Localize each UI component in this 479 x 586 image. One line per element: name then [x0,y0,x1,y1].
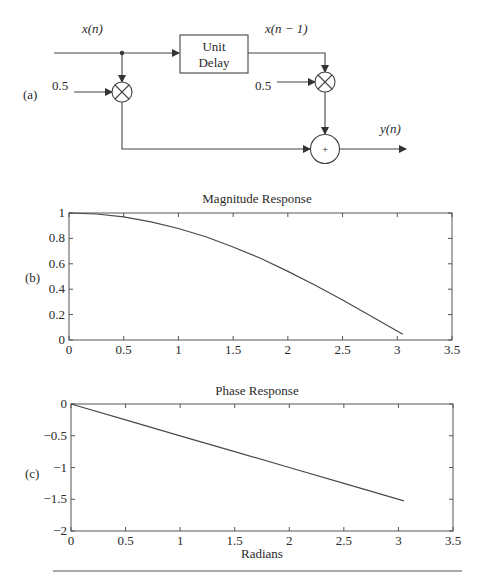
y-tick-label: 0.8 [49,230,65,245]
y-tick-label: 0.6 [49,256,66,271]
x-tick-label: 3 [394,342,401,357]
y-tick-label: 0.2 [49,307,65,322]
y-tick-label: −1.5 [43,491,67,506]
multiplier-1-icon [112,82,132,102]
panel-label-c: (c) [25,466,39,481]
x-tick-label: 1.5 [225,342,241,357]
y-tick-label: −0.5 [43,428,67,443]
x-axis-label: Radians [241,546,283,561]
x-tick-label: 2.5 [336,533,352,548]
coefficient-2-label: 0.5 [255,78,271,93]
y-tick-label: 0 [61,396,68,411]
x-tick-label: 0.5 [116,342,132,357]
delay-output-line [248,53,325,72]
y-axis: 0−0.5−1−1.5−2 [43,396,453,538]
block-diagram: (a) x(n) x(n − 1) 0.5 0.5 y(n) Unit Dela… [23,21,406,164]
input-label: x(n) [81,21,103,36]
x-axis: 00.511.522.533.5 [68,404,461,548]
panel-label-b: (b) [25,270,40,285]
x-tick-label: 2 [285,342,292,357]
y-tick-label: 0.4 [49,281,66,296]
x-tick-label: 0 [66,342,73,357]
figure: (a) x(n) x(n − 1) 0.5 0.5 y(n) Unit Dela… [0,0,479,586]
phase-chart: Phase Response (c) 0−0.5−1−1.5−2 00.511.… [25,383,461,561]
y-tick-label: −2 [53,523,67,538]
y-tick-label: 1 [59,205,66,220]
magnitude-chart: Magnitude Response (b) 00.20.40.60.81 00… [25,191,460,357]
magnitude-line [69,213,403,334]
x-tick-label: 0 [68,533,75,548]
x-tick-label: 2.5 [334,342,350,357]
x-tick-label: 1 [175,342,182,357]
unit-delay-label-2: Delay [198,55,230,70]
x-tick-label: 0.5 [117,533,133,548]
output-label: y(n) [378,121,401,136]
panel-label-a: (a) [23,87,37,102]
multiplier-1-output-line [122,102,310,149]
x-tick-label: 1 [177,533,184,548]
phase-line [71,404,404,501]
unit-delay-label-1: Unit [202,39,226,54]
y-axis: 00.20.40.60.81 [49,205,452,347]
adder-symbol: + [322,143,328,155]
x-tick-label: 2 [286,533,293,548]
multiplier-2-icon [315,72,335,92]
x-tick-label: 3.5 [445,533,461,548]
x-axis: 00.511.522.533.5 [66,213,460,357]
coefficient-1-label: 0.5 [52,78,68,93]
plot-area [71,404,453,531]
delayed-signal-label: x(n − 1) [264,21,308,36]
chart-title: Magnitude Response [202,191,312,206]
y-tick-label: 0 [59,332,66,347]
chart-title: Phase Response [215,383,299,398]
x-tick-label: 3.5 [444,342,460,357]
x-tick-label: 3 [395,533,402,548]
y-tick-label: −1 [53,460,67,475]
plot-area [69,213,452,340]
